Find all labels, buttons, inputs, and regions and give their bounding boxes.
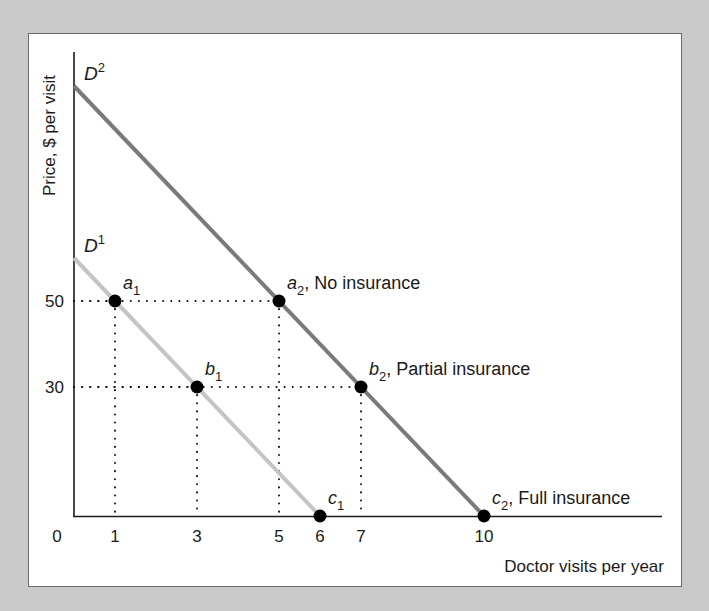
x-tick-7: 7 <box>356 527 365 546</box>
label-a2: a2, No insurance <box>287 273 420 298</box>
x-tick-3: 3 <box>192 527 201 546</box>
tick-labels: 013567105030 <box>45 292 493 546</box>
x-tick-6: 6 <box>315 527 324 546</box>
y-tick-50: 50 <box>45 292 64 311</box>
curve-label-d1: D1 <box>84 232 105 256</box>
demand-chart: Price, $ per visit Doctor visits per yea… <box>0 0 709 611</box>
point-c2 <box>478 510 491 523</box>
point-c1 <box>314 510 327 523</box>
point-a1 <box>109 295 122 308</box>
point-b1 <box>191 381 204 394</box>
label-b2: b2, Partial insurance <box>369 359 530 384</box>
x-tick-10: 10 <box>475 527 494 546</box>
y-axis-label: Price, $ per visit <box>40 75 59 196</box>
data-points <box>109 295 491 523</box>
x-axis-label: Doctor visits per year <box>504 557 664 576</box>
point-a2 <box>273 295 286 308</box>
x-tick-1: 1 <box>110 527 119 546</box>
y-tick-30: 30 <box>45 378 64 397</box>
label-b1: b1 <box>205 359 222 384</box>
point-b2 <box>355 381 368 394</box>
x-tick-0: 0 <box>52 527 61 546</box>
x-tick-5: 5 <box>274 527 283 546</box>
label-c1: c1 <box>328 488 344 513</box>
label-c2: c2, Full insurance <box>492 488 630 513</box>
curve-label-d2: D2 <box>84 60 105 84</box>
label-a1: a1 <box>123 273 140 298</box>
